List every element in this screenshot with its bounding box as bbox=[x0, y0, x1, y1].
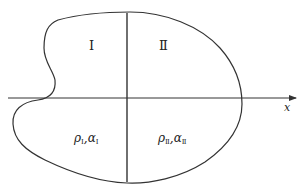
region-II-label: Ⅱ bbox=[159, 39, 168, 52]
rho-symbol: ρ bbox=[158, 131, 165, 145]
alpha-subscript: Ⅰ bbox=[96, 138, 99, 146]
rho-symbol: ρ bbox=[74, 131, 81, 145]
region-I-properties: ρⅠ,αⅠ bbox=[74, 132, 99, 146]
region-I-label: Ⅰ bbox=[89, 39, 94, 52]
alpha-symbol: α bbox=[174, 131, 182, 145]
x-axis-label: x bbox=[284, 102, 290, 113]
diagram-canvas bbox=[0, 0, 300, 188]
alpha-symbol: α bbox=[88, 131, 96, 145]
domain-diagram: Ⅰ Ⅱ ρⅠ,αⅠ ρⅡ,αⅡ x bbox=[0, 0, 300, 188]
region-II-properties: ρⅡ,αⅡ bbox=[158, 132, 187, 146]
alpha-subscript: Ⅱ bbox=[182, 138, 187, 146]
